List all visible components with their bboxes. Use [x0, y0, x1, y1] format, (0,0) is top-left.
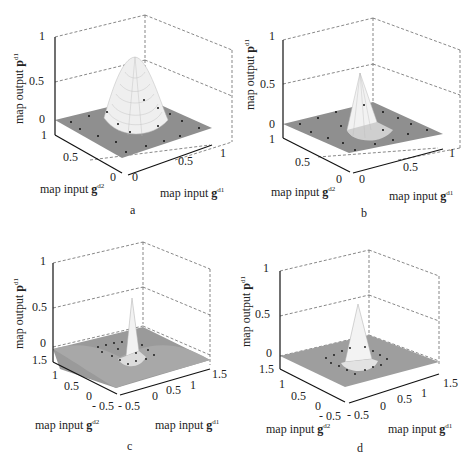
z-tick: 1 — [269, 29, 275, 44]
gd2-tick: 1.5 — [32, 353, 47, 368]
z-tick: 0.5 — [260, 77, 275, 92]
gd2-tick: 0.5 — [291, 389, 306, 404]
gd2-tick: 1.5 — [259, 362, 274, 377]
z-axis-label: map output pd1 — [239, 276, 254, 347]
gd1-tick: 1 — [449, 146, 455, 161]
gd2-axis-label: map input gd2 — [35, 418, 99, 433]
z-tick: 0.5 — [255, 307, 270, 322]
gd1-tick: 0 — [380, 399, 386, 414]
panel-caption: a — [130, 203, 135, 218]
panel-d: 1 0.5 0 1.5 1 0.5 0 - 0.5 - 0.5 0 0.5 1 … — [233, 229, 466, 458]
panel-caption: b — [361, 206, 367, 221]
gd2-tick: 1 — [269, 132, 275, 147]
panel-c: 1 0.5 0 1.5 1 0.5 0 - 0.5 - 0.5 0 0.5 1 … — [0, 229, 233, 458]
z-tick: 1 — [39, 29, 45, 44]
gd2-tick: 0 — [336, 172, 342, 187]
z-axis-label: map output pd1 — [243, 39, 258, 110]
gd1-tick: 1 — [190, 378, 196, 393]
panel-caption: c — [127, 439, 132, 454]
gd1-tick: 1.5 — [443, 376, 458, 391]
gd1-tick: 1 — [220, 146, 226, 161]
gd2-tick: 0.5 — [295, 155, 310, 170]
gd1-tick: 0.5 — [403, 160, 418, 175]
gd1-axis-label: map input gd1 — [160, 186, 224, 201]
z-axis-label: map output pd1 — [12, 53, 27, 124]
gd1-tick: 0 — [152, 389, 158, 404]
z-axis-label: map output pd1 — [12, 278, 27, 349]
gd1-tick: 0 — [132, 170, 138, 185]
gd1-axis-label: map input gd1 — [389, 189, 453, 204]
gd2-tick: 0.5 — [63, 150, 78, 165]
panel-b: 1 0.5 0 1 0.5 0 0 0.5 1 map output pd1 m… — [233, 0, 466, 229]
z-tick: 0.5 — [32, 300, 47, 315]
gd1-tick: 0 — [359, 172, 365, 187]
gd2-tick: - 0.5 — [92, 399, 114, 414]
gd2-tick: 1 — [41, 128, 47, 143]
gd1-tick: 0.5 — [166, 383, 181, 398]
gd2-axis-label: map input gd2 — [271, 185, 335, 200]
gd1-tick: - 0.5 — [118, 399, 140, 414]
gd2-tick: 0 — [110, 170, 116, 185]
gd1-axis-label: map input gd1 — [388, 422, 452, 437]
gd2-tick: 1 — [52, 368, 58, 383]
gd1-axis-label: map input gd1 — [155, 418, 219, 433]
gd1-tick: 1.5 — [212, 367, 227, 382]
gd1-tick: - 0.5 — [347, 408, 369, 423]
gd1-tick: 1 — [421, 386, 427, 401]
gd2-axis-label: map input gd2 — [266, 422, 330, 437]
gd1-tick: 0.5 — [397, 392, 412, 407]
z-tick: 0 — [269, 117, 275, 132]
z-tick: 0 — [40, 336, 46, 351]
panel-a: 1 0.5 0 1 0.5 0 0 0.5 1 map output pd1 m… — [0, 0, 233, 229]
z-tick: 1 — [40, 254, 46, 269]
gd1-tick: 0.5 — [178, 154, 193, 169]
z-tick: 0 — [266, 346, 272, 361]
z-tick: 1 — [263, 261, 269, 276]
gd2-tick: 1 — [279, 377, 285, 392]
gd2-axis-label: map input gd2 — [40, 182, 104, 197]
gd2-tick: 0.5 — [64, 379, 79, 394]
z-tick: 0.5 — [29, 74, 44, 89]
z-tick: 0 — [39, 112, 45, 127]
panel-caption: d — [357, 441, 363, 456]
